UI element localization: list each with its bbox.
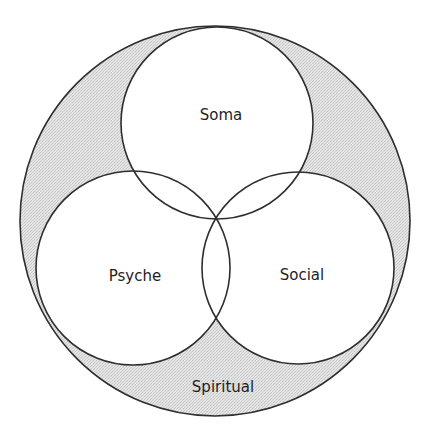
soma-label: Soma [200,106,243,124]
psyche-label: Psyche [109,267,161,285]
spiritual-label: Spiritual [192,378,254,396]
venn-svg: Soma Psyche Social Spiritual [0,0,428,437]
venn-diagram: Soma Psyche Social Spiritual [0,0,428,437]
social-label: Social [280,266,324,284]
